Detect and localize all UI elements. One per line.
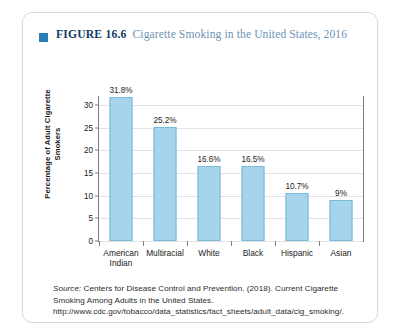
bar[interactable] bbox=[330, 200, 353, 241]
bar-value-label: 25.2% bbox=[153, 116, 176, 125]
figure-card: FIGURE 16.6 Cigarette Smoking in the Uni… bbox=[22, 12, 378, 323]
bar[interactable] bbox=[198, 166, 221, 241]
y-axis-tick-label: 5 bbox=[88, 214, 93, 223]
bar[interactable] bbox=[154, 127, 177, 241]
y-axis-label-line2: Smokers bbox=[53, 128, 62, 161]
source-text: Centers for Disease Control and Preventi… bbox=[53, 284, 344, 316]
bar[interactable] bbox=[286, 193, 309, 241]
figure-caption-text: FIGURE 16.6 Cigarette Smoking in the Uni… bbox=[56, 27, 347, 43]
bar-value-label: 10.7% bbox=[285, 182, 308, 191]
y-axis-tick-label: 15 bbox=[84, 169, 93, 178]
figure-caption: Cigarette Smoking in the United States, … bbox=[132, 28, 347, 41]
bar-slot: 16.5%Black bbox=[231, 96, 275, 241]
bar[interactable] bbox=[110, 97, 133, 241]
x-axis-tick-mark bbox=[99, 241, 100, 246]
x-axis-tick-label: Asian bbox=[313, 248, 369, 258]
x-axis-tick-mark bbox=[231, 241, 232, 246]
y-axis-tick-label: 25 bbox=[84, 123, 93, 132]
figure-label: FIGURE 16.6 bbox=[56, 28, 126, 41]
y-axis-label-line1: Percentage of Adult Cigarette bbox=[43, 89, 52, 198]
bar-value-label: 9% bbox=[335, 189, 347, 198]
source-note: Source: Centers for Disease Control and … bbox=[53, 283, 365, 318]
bar[interactable] bbox=[242, 166, 265, 241]
bar-slot: 31.8%American Indian bbox=[99, 96, 143, 241]
y-axis-tick-label: 10 bbox=[84, 191, 93, 200]
bar-slot: 10.7%Hispanic bbox=[275, 96, 319, 241]
figure-header: FIGURE 16.6 Cigarette Smoking in the Uni… bbox=[39, 27, 363, 43]
blue-square-icon bbox=[39, 33, 48, 42]
bar-slot: 9%Asian bbox=[319, 96, 363, 241]
y-axis-label: Percentage of Adult CigaretteSmokers bbox=[43, 64, 73, 224]
y-axis-tick-label: 0 bbox=[88, 237, 93, 246]
bar-slot: 25.2%Multiracial bbox=[143, 96, 187, 241]
x-axis-tick-mark bbox=[319, 241, 320, 246]
bar-series: 31.8%American Indian25.2%Multiracial16.6… bbox=[99, 96, 363, 241]
chart-plot-area: Percentage of Adult CigaretteSmokers 051… bbox=[23, 71, 379, 271]
source-prefix: Source: bbox=[53, 284, 81, 293]
bar-value-label: 16.6% bbox=[197, 155, 220, 164]
y-axis-tick-label: 20 bbox=[84, 146, 93, 155]
x-axis-tick-mark bbox=[187, 241, 188, 246]
x-axis-tick-mark bbox=[143, 241, 144, 246]
x-axis-tick-mark bbox=[275, 241, 276, 246]
chart-axes: 051015202530 31.8%American Indian25.2%Mu… bbox=[98, 96, 364, 242]
bar-value-label: 16.5% bbox=[241, 155, 264, 164]
bar-slot: 16.6%White bbox=[187, 96, 231, 241]
bar-value-label: 31.8% bbox=[109, 86, 132, 95]
y-axis-tick-label: 30 bbox=[84, 101, 93, 110]
